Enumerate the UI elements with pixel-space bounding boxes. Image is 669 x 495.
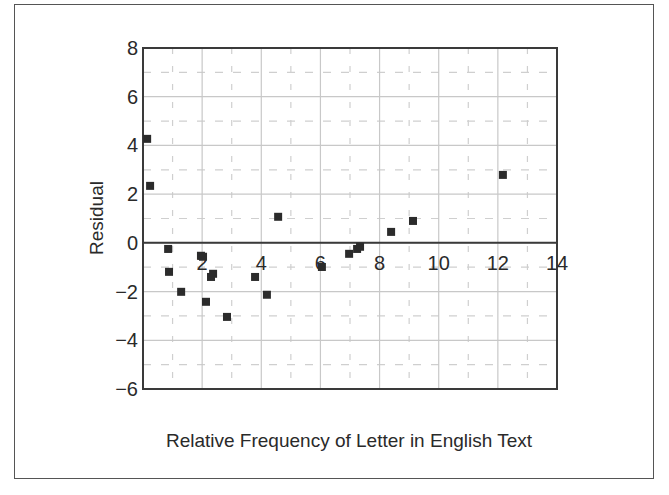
data-point-marker xyxy=(409,217,417,225)
y-tick-label: 0 xyxy=(127,232,138,254)
y-tick-label: 2 xyxy=(127,183,138,205)
data-point-marker xyxy=(165,268,173,276)
y-tick-label: 4 xyxy=(127,134,138,156)
data-point-marker xyxy=(251,273,259,281)
x-axis-title: Relative Frequency of Letter in English … xyxy=(166,430,533,451)
data-point-marker xyxy=(499,171,507,179)
data-point-marker xyxy=(263,291,271,299)
data-point-marker xyxy=(199,253,207,261)
y-axis-title: Residual xyxy=(86,181,107,255)
y-tick-label: −6 xyxy=(115,378,138,400)
x-tick-label: 4 xyxy=(256,252,267,274)
data-point-marker xyxy=(223,313,231,321)
data-point-marker xyxy=(209,270,217,278)
data-point-marker xyxy=(177,288,185,296)
x-axis-tick-labels: 2468101214 xyxy=(197,252,569,274)
y-tick-label: 8 xyxy=(127,37,138,59)
y-tick-label: −2 xyxy=(115,281,138,303)
data-point-marker xyxy=(345,250,353,258)
x-tick-label: 8 xyxy=(374,252,385,274)
x-tick-label: 10 xyxy=(428,252,450,274)
data-point-marker xyxy=(318,263,326,271)
data-point-marker xyxy=(387,228,395,236)
y-axis-tick-labels: 86420−2−4−6 xyxy=(115,37,138,400)
data-point-marker xyxy=(143,135,151,143)
data-point-marker xyxy=(202,298,210,306)
scatter-plot: 86420−2−4−6 2468101214 Residual Relative… xyxy=(0,0,669,495)
data-point-marker xyxy=(274,213,282,221)
data-point-marker xyxy=(356,243,364,251)
x-tick-label: 14 xyxy=(546,252,568,274)
data-point-marker xyxy=(164,245,172,253)
y-tick-label: −4 xyxy=(115,329,138,351)
x-tick-label: 12 xyxy=(487,252,509,274)
minor-gridlines xyxy=(143,48,557,389)
y-tick-label: 6 xyxy=(127,86,138,108)
data-point-marker xyxy=(146,182,154,190)
data-points xyxy=(143,135,507,321)
